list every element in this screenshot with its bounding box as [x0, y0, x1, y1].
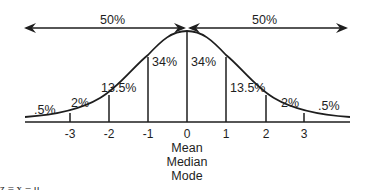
left-1sd-label: 13.5%: [101, 81, 136, 95]
tick-label: 1: [223, 127, 230, 141]
mode-label: Mode: [171, 169, 202, 183]
right-half-label: 50%: [252, 13, 277, 27]
z-score-formula: z = x − μ: [0, 182, 40, 190]
tick-label: -1: [143, 127, 154, 141]
mean-label: Mean: [171, 141, 202, 155]
tick-label: -2: [104, 127, 115, 141]
left-half-label: 50%: [100, 13, 125, 27]
sd-lines: [70, 31, 304, 122]
left-tail-label: .5%: [34, 103, 56, 117]
left-center-label: 34%: [152, 55, 177, 69]
normal-distribution-diagram: 50% 50% .5% 2% 13.5% 34% 34% 13.5% 2% .5…: [0, 0, 379, 190]
tick-label: -3: [65, 127, 76, 141]
right-1sd-label: 13.5%: [230, 81, 265, 95]
left-2sd-label: 2%: [71, 96, 89, 110]
right-tail-label: .5%: [318, 99, 340, 113]
tick-label: 3: [301, 127, 308, 141]
tick-label: 0: [184, 127, 191, 141]
median-label: Median: [167, 155, 208, 169]
tick-label: 2: [263, 127, 270, 141]
right-2sd-label: 2%: [281, 96, 299, 110]
right-center-label: 34%: [191, 55, 216, 69]
